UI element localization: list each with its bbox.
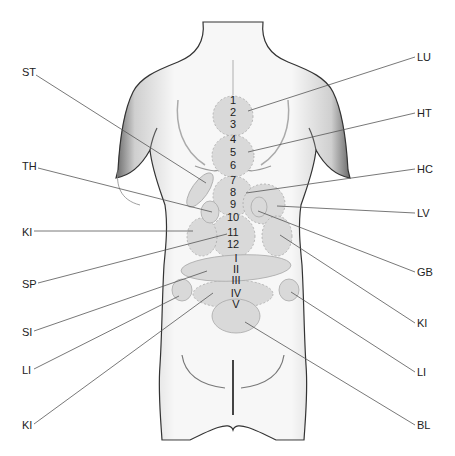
label-li-left: LI [22, 364, 31, 376]
spine-label: 4 [230, 133, 236, 145]
label-ht: HT [417, 107, 432, 119]
diagram-canvas: 1 2 3 4 5 6 7 8 9 10 11 12 I II III IV V [0, 0, 455, 456]
spine-label: 9 [230, 198, 236, 210]
zone-ki-left [187, 218, 217, 256]
zone-li-right [279, 279, 299, 301]
body-zone-diagram: 1 2 3 4 5 6 7 8 9 10 11 12 I II III IV V… [0, 0, 455, 456]
spine-label: 3 [230, 118, 236, 130]
label-hc: HC [417, 163, 433, 175]
label-th: TH [22, 160, 37, 172]
spine-label: 7 [230, 174, 236, 186]
label-st: ST [22, 66, 36, 78]
spine-label: V [232, 298, 240, 310]
spine-label: 1 [230, 94, 236, 106]
label-lu: LU [417, 51, 431, 63]
zone-ki-right [262, 216, 292, 256]
label-si: SI [22, 326, 32, 338]
label-bl: BL [417, 419, 430, 431]
label-lv: LV [417, 207, 430, 219]
label-sp: SP [22, 278, 37, 290]
spine-label: 8 [230, 186, 236, 198]
spine-label: 2 [230, 106, 236, 118]
spine-label: 6 [230, 159, 236, 171]
spine-label: 5 [230, 146, 236, 158]
zone-lv [251, 197, 267, 217]
label-ki-right: KI [417, 317, 427, 329]
label-ki-left-lower: KI [22, 419, 32, 431]
spine-label: III [231, 274, 240, 286]
zone-th [201, 201, 219, 223]
spine-label: 10 [227, 211, 239, 223]
label-ki-left-upper: KI [22, 226, 32, 238]
label-li-right: LI [417, 366, 426, 378]
spine-label: 12 [227, 238, 239, 250]
spine-label: 11 [227, 226, 238, 238]
label-gb: GB [417, 266, 433, 278]
